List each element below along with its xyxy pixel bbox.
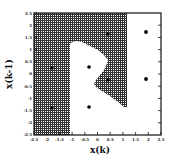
data-point [144,77,148,81]
svg-text:-0.5: -0.5 [23,84,32,89]
data-point [106,78,110,82]
y-axis-label: x(k-1) [4,59,14,89]
svg-text:0: 0 [96,137,99,142]
svg-text:1.5: 1.5 [25,35,32,40]
svg-text:1: 1 [122,137,125,142]
data-point [106,32,110,36]
x-axis-label: x(k) [90,145,110,155]
data-point [144,30,148,34]
svg-text:2.5: 2.5 [158,137,165,142]
data-point [50,66,53,69]
svg-text:-1.5: -1.5 [55,137,64,142]
svg-text:0.5: 0.5 [107,137,114,142]
svg-text:-2: -2 [44,137,49,142]
y-tick-labels: -2.5 -2 -1.5 -1 -0.5 0 0.5 1 1.5 2 2.5 [23,11,32,137]
svg-text:-2.5: -2.5 [30,137,39,142]
data-point [50,106,53,109]
decision-region-chart: -2.5 -2 -1.5 -1 -0.5 0 0.5 1 1.5 2 2.5 -… [0,0,173,160]
svg-text:1.5: 1.5 [132,137,139,142]
svg-text:0: 0 [29,71,32,76]
hatched-region [34,13,127,135]
svg-text:-1: -1 [70,137,75,142]
svg-text:1: 1 [29,47,32,52]
data-point [87,65,91,69]
data-point [87,105,91,109]
svg-text:-0.5: -0.5 [80,137,89,142]
svg-text:2.5: 2.5 [25,11,32,16]
svg-text:-2.5: -2.5 [23,132,32,137]
svg-text:2: 2 [29,23,32,28]
svg-text:2: 2 [147,137,150,142]
svg-text:-2: -2 [28,120,33,125]
svg-text:-1.5: -1.5 [23,108,32,113]
svg-text:-1: -1 [28,96,33,101]
svg-text:0.5: 0.5 [25,59,32,64]
x-tick-labels: -2.5 -2 -1.5 -1 -0.5 0 0.5 1 1.5 2 2.5 [30,137,165,142]
